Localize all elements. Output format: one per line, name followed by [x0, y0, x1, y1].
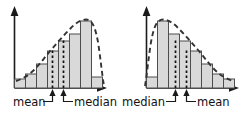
median-label: median	[74, 95, 117, 109]
right-chart-callouts: median mean	[122, 89, 230, 109]
left-skewed-chart-panel: mean median	[0, 0, 122, 113]
y-axis-arrowhead	[11, 6, 19, 16]
histogram-bar	[70, 34, 81, 88]
median-pointer-arrow	[172, 89, 178, 96]
median-leader-line	[166, 96, 176, 102]
left-chart-callouts: mean median	[13, 89, 117, 109]
histogram-bar	[92, 77, 103, 88]
median-label: median	[122, 95, 165, 109]
histogram-bar	[191, 51, 202, 88]
mean-leader-line	[187, 96, 197, 102]
y-axis-arrowhead	[143, 6, 151, 16]
median-pointer-arrow	[60, 89, 66, 96]
histogram-bar	[158, 21, 169, 88]
histogram-bar	[169, 34, 180, 88]
histogram-bar	[37, 64, 48, 88]
right-skewed-chart-panel: median mean	[122, 0, 244, 113]
left-chart-bars	[15, 21, 103, 88]
mean-pointer-arrow	[49, 89, 55, 96]
mean-pointer-arrow	[183, 89, 189, 96]
histogram-bar	[202, 64, 213, 88]
mean-label: mean	[197, 95, 230, 109]
mean-label: mean	[13, 95, 46, 109]
histogram-bar	[81, 21, 92, 88]
histogram-bar	[180, 41, 191, 88]
right-chart-bars	[147, 21, 235, 88]
skewed-distributions-figure: mean median	[0, 0, 244, 113]
histogram-bar	[147, 77, 158, 88]
median-leader-line	[64, 96, 74, 102]
